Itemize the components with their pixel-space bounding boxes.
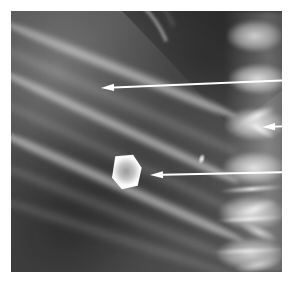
radiograph-figure — [0, 0, 293, 281]
radiograph-image — [11, 11, 282, 272]
film-vignette-overlay — [11, 11, 282, 272]
